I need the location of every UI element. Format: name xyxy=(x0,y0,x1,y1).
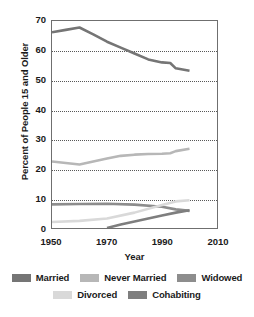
x-tick-1990: 1990 xyxy=(139,236,185,247)
y-tick-50: 50 xyxy=(8,75,46,85)
legend-row-2: DivorcedCohabiting xyxy=(0,289,254,300)
legend-swatch-icon xyxy=(177,274,196,282)
series-line-never-married xyxy=(52,149,190,165)
x-tick-2010: 2010 xyxy=(195,236,241,247)
legend-swatch-icon xyxy=(53,291,72,299)
legend-swatch-icon xyxy=(80,274,99,282)
legend-label: Widowed xyxy=(201,272,242,283)
y-tick-70: 70 xyxy=(8,15,46,25)
legend-item-divorced[interactable]: Divorced xyxy=(53,289,117,300)
legend-label: Married xyxy=(36,272,70,283)
legend-item-never-married[interactable]: Never Married xyxy=(80,272,166,283)
legend-label: Cohabiting xyxy=(152,289,201,300)
series-lines xyxy=(52,21,217,228)
y-tick-60: 60 xyxy=(8,45,46,55)
y-tick-10: 10 xyxy=(8,194,46,204)
legend-swatch-icon xyxy=(128,291,147,299)
legend-swatch-icon xyxy=(12,274,31,282)
legend-row-1: MarriedNever MarriedWidowed xyxy=(0,272,254,283)
x-axis-title: Year xyxy=(51,251,218,262)
legend-label: Never Married xyxy=(104,272,166,283)
legend-item-cohabiting[interactable]: Cohabiting xyxy=(128,289,201,300)
legend-label: Divorced xyxy=(77,289,117,300)
y-tick-0: 0 xyxy=(8,224,46,234)
x-tick-1970: 1970 xyxy=(84,236,130,247)
series-line-married xyxy=(52,28,190,71)
y-tick-30: 30 xyxy=(8,134,46,144)
x-tick-1950: 1950 xyxy=(28,236,74,247)
legend-item-widowed[interactable]: Widowed xyxy=(177,272,242,283)
series-line-cohabiting xyxy=(107,210,190,228)
series-line-widowed xyxy=(52,204,190,211)
y-tick-20: 20 xyxy=(8,164,46,174)
y-tick-40: 40 xyxy=(8,105,46,115)
legend-item-married[interactable]: Married xyxy=(12,272,70,283)
chart-legend: MarriedNever MarriedWidowed DivorcedCoha… xyxy=(0,272,254,306)
marital-status-line-chart: Percent of People 15 and Older 010203040… xyxy=(0,0,254,317)
plot-area xyxy=(51,20,218,229)
